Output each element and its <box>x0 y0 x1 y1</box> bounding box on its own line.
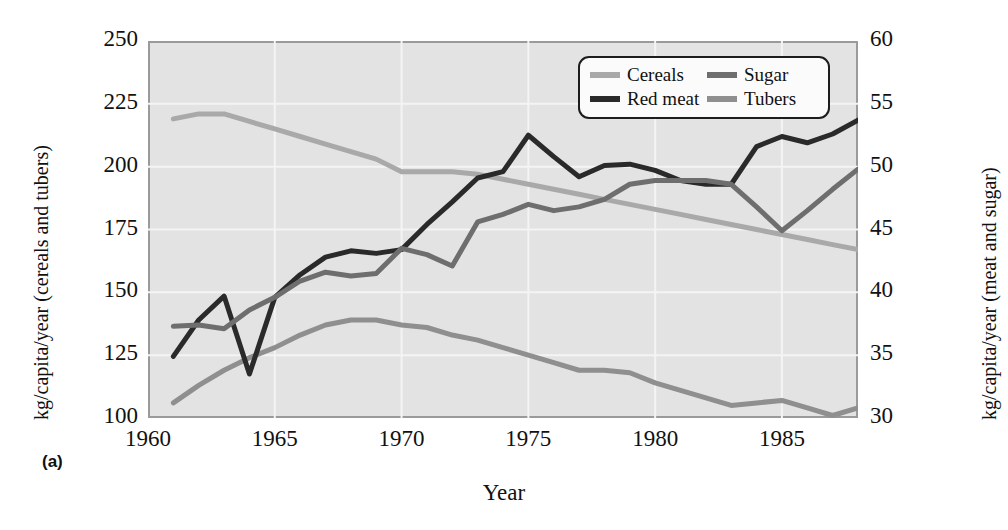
x-axis-tick: 1985 <box>737 426 827 452</box>
y-axis-right-tick: 55 <box>870 89 948 115</box>
y-axis-right-tick: 35 <box>870 340 948 366</box>
x-axis-tick: 1970 <box>357 426 447 452</box>
legend-item-red-meat[interactable]: Red meat <box>590 88 701 110</box>
y-axis-right-tick: 45 <box>870 215 948 241</box>
y-axis-left-tick: 150 <box>60 277 138 303</box>
y-axis-right-tick: 50 <box>870 152 948 178</box>
panel-tag: (a) <box>42 452 63 472</box>
legend-item-cereals[interactable]: Cereals <box>590 64 701 86</box>
series-line-tubers <box>173 320 858 416</box>
x-axis-tick: 1980 <box>610 426 700 452</box>
chart-legend: Cereals Sugar Red meat Tubers <box>578 56 830 119</box>
y-axis-left-tick: 225 <box>60 89 138 115</box>
y-axis-right-tick: 30 <box>870 403 948 429</box>
figure-panel: kg/capita/year (cereals and tubers) kg/c… <box>0 0 1008 530</box>
y-axis-left-tick: 200 <box>60 152 138 178</box>
legend-swatch-red-meat <box>590 96 620 102</box>
series-line-sugar <box>173 169 858 329</box>
y-axis-left-tick: 175 <box>60 215 138 241</box>
x-axis-tick: 1965 <box>230 426 320 452</box>
y-axis-left-tick: 250 <box>60 26 138 52</box>
legend-item-sugar[interactable]: Sugar <box>707 64 818 86</box>
legend-swatch-cereals <box>590 72 620 78</box>
legend-label-cereals: Cereals <box>627 64 684 86</box>
y-axis-left-label: kg/capita/year (cereals and tubers) <box>30 145 53 420</box>
y-axis-left-tick: 125 <box>60 340 138 366</box>
legend-label-sugar: Sugar <box>744 64 788 86</box>
legend-label-tubers: Tubers <box>744 88 796 110</box>
x-axis-tick: 1975 <box>483 426 573 452</box>
legend-label-red-meat: Red meat <box>627 88 699 110</box>
x-axis-tick: 1960 <box>103 426 193 452</box>
series-line-red-meat <box>173 120 858 374</box>
legend-item-tubers[interactable]: Tubers <box>707 88 818 110</box>
y-axis-right-label: kg/capita/year (meat and sugar) <box>978 167 1001 420</box>
legend-swatch-sugar <box>707 72 737 78</box>
legend-swatch-tubers <box>707 96 737 102</box>
x-axis-label: Year <box>0 480 1008 506</box>
y-axis-right-tick: 60 <box>870 26 948 52</box>
y-axis-right-tick: 40 <box>870 277 948 303</box>
